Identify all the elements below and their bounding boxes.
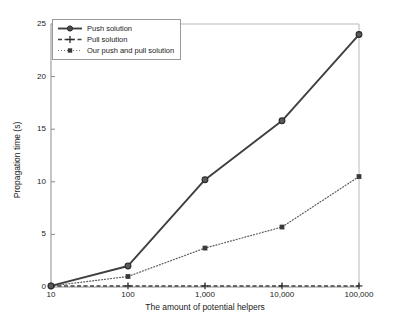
xtick-label-10: 10 <box>47 291 56 299</box>
data-point-marker <box>48 283 54 289</box>
legend-item-pull-solution: Pull solution <box>57 34 174 45</box>
xtick-label-100000: 100,000 <box>345 291 374 299</box>
data-point-marker <box>125 283 132 290</box>
ytick-label-25: 25 <box>28 20 46 28</box>
y-axis-label: Propagation time (s) <box>12 100 22 220</box>
data-point-marker <box>280 225 285 230</box>
data-point-marker <box>202 177 208 183</box>
legend-marker-square-dotted-icon <box>57 45 83 56</box>
chart-legend: Push solution Pull solution Our push and… <box>52 19 181 60</box>
legend-item-our-push-and-pull-solution: Our push and pull solution <box>57 45 174 56</box>
x-axis-label: The amount of potential helpers <box>51 302 359 312</box>
data-point-marker <box>279 118 285 124</box>
legend-marker-plus-dashed-icon <box>57 34 83 45</box>
ytick-label-15: 15 <box>28 125 46 133</box>
ytick-label-10: 10 <box>28 178 46 186</box>
xtick-label-1000: 1,000 <box>195 291 215 299</box>
xtick-label-100: 100 <box>121 291 134 299</box>
data-point-marker <box>356 32 362 38</box>
data-point-marker <box>126 274 131 279</box>
data-point-marker <box>203 246 208 251</box>
data-point-marker <box>202 283 209 290</box>
legend-label-push-solution: Push solution <box>87 25 132 33</box>
ytick-label-20: 20 <box>28 73 46 81</box>
ytick-label-0: 0 <box>28 283 46 291</box>
data-point-marker <box>356 283 363 290</box>
y-axis-ticks <box>51 24 55 287</box>
ytick-label-5: 5 <box>28 230 46 238</box>
chart-figure: 0 5 10 15 20 25 10 100 1,000 10,000 100,… <box>0 0 401 322</box>
series-our-push-and-pull <box>49 174 362 288</box>
legend-marker-circle-solid-icon <box>57 23 83 34</box>
data-point-marker <box>357 174 362 179</box>
xtick-label-10000: 10,000 <box>270 291 294 299</box>
legend-item-push-solution: Push solution <box>57 23 174 34</box>
data-point-marker <box>279 283 286 290</box>
legend-label-our-push-and-pull-solution: Our push and pull solution <box>87 47 174 55</box>
series-pull-solution <box>48 283 363 290</box>
legend-label-pull-solution: Pull solution <box>87 36 127 44</box>
data-point-marker <box>125 263 131 269</box>
